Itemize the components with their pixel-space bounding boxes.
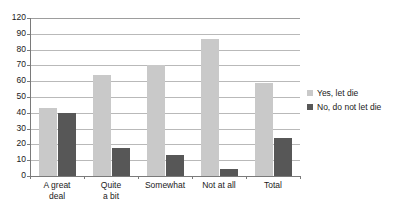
bar [58, 113, 76, 176]
x-axis-category-label: A great deal [30, 180, 84, 201]
x-axis-category-label: Total [246, 180, 300, 191]
y-axis-tick-label: 90 [2, 29, 26, 38]
legend-item: Yes, let die [307, 86, 405, 99]
y-axis-tick-label: 50 [2, 92, 26, 101]
y-axis-tick-label: 20 [2, 139, 26, 148]
bar [112, 148, 130, 176]
x-axis-tick [192, 176, 193, 179]
bar [147, 65, 165, 176]
y-axis-tick-label: 80 [2, 45, 26, 54]
y-axis-tick-label: 70 [2, 60, 26, 69]
x-axis-tick [84, 176, 85, 179]
x-axis-line [30, 176, 301, 177]
y-axis-tick-label: 10 [2, 155, 26, 164]
bar [201, 39, 219, 176]
y-axis-tick-label: 120 [2, 13, 26, 22]
x-axis-category-labels: A great dealQuite a bitSomewhatNot at al… [30, 180, 300, 208]
y-axis-tick-label: 40 [2, 108, 26, 117]
y-axis-tick-label: 0 [2, 171, 26, 180]
legend: Yes, let dieNo, do not let die [307, 86, 405, 114]
bar [255, 83, 273, 176]
x-axis-tick [138, 176, 139, 179]
legend-item-label: Yes, let die [317, 88, 358, 98]
bar-chart: 1209080706050403020100 A great dealQuite… [0, 0, 408, 210]
x-axis-category-label: Quite a bit [84, 180, 138, 201]
bar [39, 108, 57, 176]
legend-item-label: No, do not let die [317, 102, 381, 112]
y-axis-tick-label: 60 [2, 76, 26, 85]
legend-swatch-icon [307, 90, 313, 96]
x-axis-tick [300, 176, 301, 179]
x-axis-tick [246, 176, 247, 179]
y-axis-tick-label: 30 [2, 124, 26, 133]
bar [274, 138, 292, 176]
legend-swatch-icon [307, 104, 313, 110]
x-axis-category-label: Not at all [192, 180, 246, 191]
x-axis-tick [30, 176, 31, 179]
bar [93, 75, 111, 176]
x-axis-category-label: Somewhat [138, 180, 192, 191]
bars-layer [30, 18, 300, 176]
bar [166, 155, 184, 176]
bar [220, 169, 238, 176]
legend-item: No, do not let die [307, 100, 405, 113]
